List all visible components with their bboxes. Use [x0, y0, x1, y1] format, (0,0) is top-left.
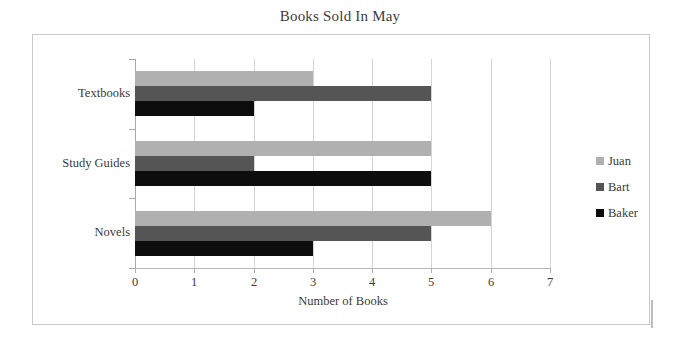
legend-item-baker[interactable]: Baker: [596, 200, 650, 226]
bar-textbooks-juan: [135, 71, 313, 86]
category-label-study-guides: Study Guides: [40, 156, 130, 171]
bar-novels-bart: [135, 226, 431, 241]
x-tick-label-1: 1: [182, 275, 206, 290]
chart-title: Books Sold In May: [0, 8, 680, 25]
legend-swatch-baker-icon: [596, 209, 604, 217]
bar-novels-juan: [135, 211, 491, 226]
category-label-textbooks: Textbooks: [40, 86, 130, 101]
x-tick-label-4: 4: [360, 275, 384, 290]
bar-study-guides-juan: [135, 141, 431, 156]
chart-frame-shadow: [651, 300, 653, 328]
legend-label-baker: Baker: [608, 207, 638, 220]
chart-x-axis-title: Number of Books: [135, 294, 551, 309]
legend-swatch-juan-icon: [596, 157, 604, 165]
x-axis-line: [135, 268, 551, 269]
x-tick-label-0: 0: [123, 275, 147, 290]
legend-label-bart: Bart: [608, 181, 630, 194]
bar-textbooks-bart: [135, 86, 431, 101]
x-tick-label-2: 2: [242, 275, 266, 290]
x-tick-label-3: 3: [301, 275, 325, 290]
gridline-x-7: [550, 59, 551, 268]
chart-legend: JuanBartBaker: [596, 148, 650, 226]
x-tick-label-7: 7: [538, 275, 562, 290]
category-label-novels: Novels: [40, 225, 130, 240]
x-tick-label-5: 5: [419, 275, 443, 290]
bar-chart: Books Sold In May TextbooksStudy GuidesN…: [0, 0, 680, 353]
chart-plot-area: [135, 59, 550, 268]
bar-study-guides-baker: [135, 171, 431, 186]
legend-item-bart[interactable]: Bart: [596, 174, 650, 200]
legend-label-juan: Juan: [608, 155, 631, 168]
bar-novels-baker: [135, 241, 313, 256]
bar-textbooks-baker: [135, 101, 254, 116]
bar-study-guides-bart: [135, 156, 254, 171]
legend-item-juan[interactable]: Juan: [596, 148, 650, 174]
y-tick-3: [129, 268, 135, 269]
legend-swatch-bart-icon: [596, 183, 604, 191]
x-tick-label-6: 6: [479, 275, 503, 290]
